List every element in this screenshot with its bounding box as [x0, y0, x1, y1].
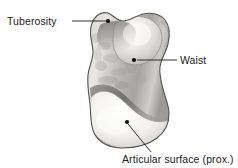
- label-articular-surface: Articular surface (prox.): [122, 153, 234, 165]
- upper-lobe-highlight: [123, 22, 151, 46]
- marker-dot-tuberosity: [106, 19, 110, 23]
- label-tuberosity: Tuberosity: [7, 15, 57, 27]
- lower-lobe-highlight: [96, 106, 136, 134]
- marker-dot-articular-surface: [125, 120, 129, 124]
- marker-dot-waist: [132, 58, 136, 62]
- label-waist: Waist: [180, 54, 206, 66]
- figure-container: Tuberosity Waist Articular surface (prox…: [0, 0, 238, 168]
